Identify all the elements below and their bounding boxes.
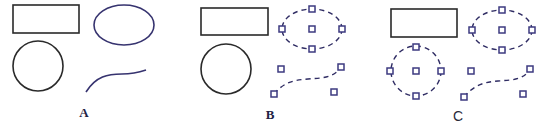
curve-handle[interactable] — [468, 68, 474, 74]
panel-label: A — [79, 105, 89, 120]
rectangle-shape[interactable] — [391, 9, 457, 37]
ellipse-handle[interactable] — [469, 27, 475, 33]
curve-handle[interactable] — [338, 64, 344, 70]
curve-handle[interactable] — [331, 89, 337, 95]
panel-c: C — [387, 7, 535, 124]
panel-b: B — [201, 6, 345, 122]
shape-selection-diagram: ABC — [0, 0, 545, 128]
circle-handle[interactable] — [413, 68, 419, 74]
ellipse-handle[interactable] — [309, 6, 315, 12]
ellipse-handle[interactable] — [499, 27, 505, 33]
ellipse-handle[interactable] — [499, 47, 505, 53]
panel-label: C — [453, 108, 463, 124]
circle-shape[interactable] — [13, 41, 63, 91]
ellipse-shape[interactable] — [94, 5, 154, 45]
panel-a: A — [13, 5, 154, 120]
rectangle-shape[interactable] — [13, 5, 79, 33]
ellipse-handle[interactable] — [309, 46, 315, 52]
circle-handle[interactable] — [413, 93, 419, 99]
circle-handle[interactable] — [438, 68, 444, 74]
curve-handle[interactable] — [271, 91, 277, 97]
ellipse-handle[interactable] — [499, 7, 505, 13]
circle-handle[interactable] — [387, 68, 393, 74]
circle-handle[interactable] — [413, 44, 419, 50]
ellipse-handle[interactable] — [529, 27, 535, 33]
circle-shape[interactable] — [201, 44, 251, 94]
curve-handle[interactable] — [520, 91, 526, 97]
curve-shape[interactable] — [86, 70, 146, 92]
rectangle-shape[interactable] — [201, 8, 268, 35]
ellipse-handle[interactable] — [309, 26, 315, 32]
curve-handle[interactable] — [527, 66, 533, 72]
ellipse-handle[interactable] — [339, 26, 345, 32]
ellipse-handle[interactable] — [279, 26, 285, 32]
curve-handle[interactable] — [461, 94, 467, 100]
panel-label: B — [266, 107, 275, 122]
curve-handle[interactable] — [278, 66, 284, 72]
